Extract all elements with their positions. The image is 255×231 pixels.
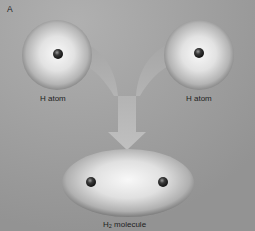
nucleus-left-icon: [53, 49, 63, 59]
diagram-canvas: [0, 0, 255, 231]
left-h-atom: [22, 20, 92, 90]
right-atom-label: H atom: [186, 94, 212, 103]
nucleus-molecule-right-icon: [158, 177, 168, 187]
h2-molecule: [62, 149, 194, 217]
molecular-orbital: [62, 149, 194, 217]
panel-letter: A: [7, 4, 13, 14]
right-h-atom: [164, 20, 234, 90]
molecule-label-suffix: molecule: [112, 220, 146, 229]
molecule-label: H2 molecule: [103, 220, 146, 229]
h2-formation-diagram: A H atom H atom H2 molecule: [0, 0, 255, 231]
left-atom-label: H atom: [40, 94, 66, 103]
nucleus-right-icon: [194, 48, 204, 58]
nucleus-molecule-left-icon: [86, 177, 96, 187]
